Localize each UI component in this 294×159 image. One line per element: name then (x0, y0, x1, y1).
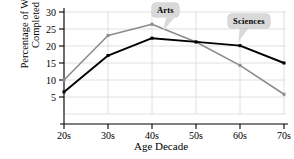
series-sciences (63, 37, 286, 94)
data-point (283, 93, 286, 96)
y-tick-30: 30 (46, 7, 56, 18)
data-point (63, 90, 66, 93)
y-tick-25: 25 (46, 24, 56, 35)
data-point (195, 40, 198, 43)
data-point (151, 37, 154, 40)
data-point (239, 64, 242, 67)
series-arts (63, 23, 286, 96)
x-axis-title-text: Age Decade (106, 140, 188, 152)
y-tick-15: 15 (46, 58, 56, 69)
data-point (151, 23, 154, 26)
data-point (107, 54, 110, 57)
data-series-layer (63, 18, 286, 96)
line-chart: 30 25 20 15 10 5 20s 30s 40s 50s 60s 70s (0, 0, 294, 159)
series-line (64, 24, 284, 94)
y-tick-labels: 30 25 20 15 10 5 (46, 7, 56, 103)
data-point (283, 62, 286, 65)
annotation-sciences: Sciences (228, 14, 270, 28)
data-point (239, 44, 242, 47)
data-point (63, 79, 66, 82)
annotation-arts-label: Arts (157, 5, 174, 15)
y-axis (59, 8, 64, 124)
x-axis-title: Age Decade (0, 140, 294, 152)
y-tick-20: 20 (46, 41, 56, 52)
x-axis (60, 124, 288, 129)
data-point (107, 34, 110, 37)
annotation-sciences-label: Sciences (233, 16, 265, 26)
y-tick-5: 5 (51, 92, 56, 103)
y-tick-10: 10 (46, 75, 56, 86)
annotation-arts: Arts (152, 3, 179, 17)
